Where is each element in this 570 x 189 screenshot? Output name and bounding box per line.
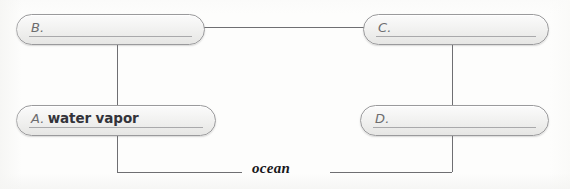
answer-box-b-content: B. <box>17 18 47 42</box>
ocean-label: ocean <box>252 160 290 177</box>
answer-box-d[interactable]: D. <box>360 105 549 136</box>
answer-box-a-answer: water vapor <box>48 110 139 126</box>
connector-b-to-a <box>117 44 118 106</box>
answer-box-d-writing-line <box>373 127 536 128</box>
answer-box-a-content: A.water vapor <box>17 109 139 133</box>
answer-box-b[interactable]: B. <box>16 14 205 45</box>
answer-box-a[interactable]: A.water vapor <box>16 105 216 136</box>
connector-c-to-d <box>452 44 453 106</box>
answer-box-b-writing-line <box>29 36 192 37</box>
answer-box-d-content: D. <box>361 109 393 133</box>
answer-box-c-writing-line <box>376 36 536 37</box>
connector-b-to-c <box>204 27 365 28</box>
connector-a-to-ocean-vertical <box>117 135 118 172</box>
answer-box-c[interactable]: C. <box>363 14 549 45</box>
answer-box-b-letter: B. <box>31 20 44 35</box>
answer-box-c-content: C. <box>364 18 395 42</box>
answer-box-a-letter: A. <box>31 111 45 126</box>
connector-a-to-ocean-horizontal <box>117 172 242 173</box>
answer-box-c-letter: C. <box>378 20 392 35</box>
water-cycle-diagram: B. C. A.water vapor D. ocean <box>0 0 570 189</box>
connector-d-to-ocean-horizontal <box>330 172 452 173</box>
answer-box-d-letter: D. <box>375 111 390 126</box>
connector-d-to-ocean-vertical <box>452 135 453 172</box>
